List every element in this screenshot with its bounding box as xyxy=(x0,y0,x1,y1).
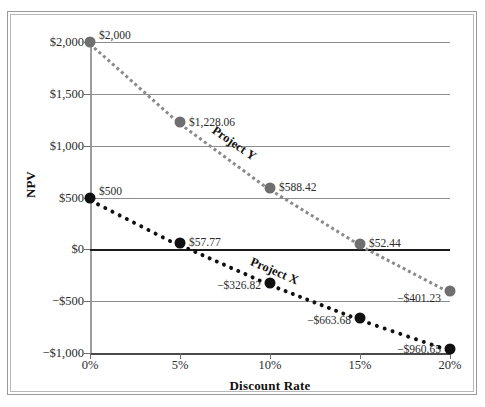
y-tick-label-1000: $1,000 xyxy=(50,138,84,153)
x-tick-label-15: 15% xyxy=(349,358,372,373)
x-tick-label-20: 20% xyxy=(439,358,462,373)
gridline-zero xyxy=(90,249,450,251)
x-tick-label-10: 10% xyxy=(259,358,282,373)
data-label-projecty: $2,000 xyxy=(99,29,131,41)
data-label-projectx: −$960.65 xyxy=(397,343,441,355)
y-tick-label-500: $500 xyxy=(59,190,84,205)
data-label-projecty: −$401.23 xyxy=(397,292,441,304)
y-tick-label-neg1000: −$1,000 xyxy=(43,346,84,361)
x-tick-label-5: 5% xyxy=(172,358,189,373)
y-tick-label-2000: $2,000 xyxy=(50,35,84,50)
data-label-projectx: −$663.68 xyxy=(307,314,351,326)
data-point-projecty[interactable] xyxy=(175,117,186,128)
y-axis-tick-labels: $2,000 $1,500 $1,000 $500 $0 −$500 −$1,0… xyxy=(0,42,84,353)
chart-figure: NPV $2,000 $1,500 $1,000 $500 $0 −$500 −… xyxy=(0,0,485,407)
y-tick-1000 xyxy=(84,146,90,147)
gridline-neg500 xyxy=(90,301,450,302)
data-point-projecty[interactable] xyxy=(445,285,456,296)
series-line-segment-projectx xyxy=(88,198,180,247)
series-line-segment-projecty xyxy=(88,42,180,124)
y-tick-1500 xyxy=(84,94,90,95)
gridline-2000 xyxy=(90,42,450,43)
data-label-projecty: $52.44 xyxy=(369,237,401,249)
gridline-1000 xyxy=(90,146,450,147)
data-label-projectx: $57.77 xyxy=(189,236,221,248)
y-tick-neg500 xyxy=(84,301,90,302)
x-tick-label-0: 0% xyxy=(82,358,99,373)
y-tick-label-neg500: −$500 xyxy=(52,294,84,309)
x-axis-title: Discount Rate xyxy=(90,378,450,394)
data-label-projecty: $1,228.06 xyxy=(189,116,235,128)
data-point-projectx[interactable] xyxy=(445,343,456,354)
data-point-projectx[interactable] xyxy=(355,313,366,324)
y-tick-0 xyxy=(84,249,90,250)
gridline-500 xyxy=(90,198,450,199)
data-point-projectx[interactable] xyxy=(85,192,96,203)
data-label-projectx: $500 xyxy=(99,185,122,197)
plot-area: $2,000 $1,228.06 $588.42 $52.44 −$401.23… xyxy=(90,42,450,353)
series-line-segment-projecty xyxy=(359,244,450,294)
data-point-projecty[interactable] xyxy=(85,37,96,48)
y-tick-label-1500: $1,500 xyxy=(50,86,84,101)
y-tick-label-0: $0 xyxy=(72,242,85,257)
data-label-projectx: −$326.82 xyxy=(217,279,261,291)
data-point-projectx[interactable] xyxy=(175,238,186,249)
series-annotation-projecty: Project Y xyxy=(209,123,259,164)
data-point-projecty[interactable] xyxy=(355,238,366,249)
data-label-projecty: $588.42 xyxy=(279,181,316,193)
data-point-projecty[interactable] xyxy=(265,183,276,194)
